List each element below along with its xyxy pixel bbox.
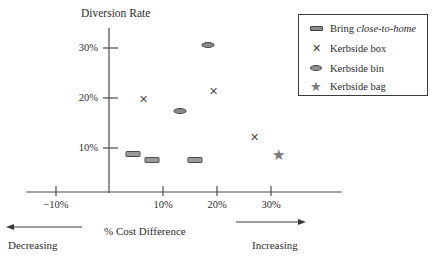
legend-rect-marker-icon: [305, 26, 327, 31]
data-point-star-3-0: ★: [272, 148, 285, 163]
legend-label-bring: Bring close-to-home: [330, 23, 416, 34]
x-tick-label-30: 30%: [251, 199, 291, 210]
legend-item-kerbside-bag: ★ Kerbside bag: [305, 77, 386, 95]
x-tick-label-10: 10%: [143, 199, 183, 210]
x-tick-label-neg10: −10%: [36, 199, 76, 210]
y-tick-label-10: 10%: [64, 142, 98, 153]
x-axis-title: % Cost Difference: [104, 225, 186, 237]
data-point-rect-0-1: [145, 157, 160, 163]
data-point-cross-1-1: ✕: [209, 85, 218, 96]
y-tick-label-20: 20%: [64, 92, 98, 103]
legend-ellipse-marker-icon: [305, 65, 327, 71]
data-point-cross-1-0: ✕: [139, 94, 148, 105]
decreasing-label: Decreasing: [8, 239, 57, 251]
data-point-ellipse-2-1: [201, 42, 214, 48]
scatter-chart: Diversion Rate % Cost Difference 30% 20%…: [0, 0, 433, 261]
legend-label-kerbside-bin: Kerbside bin: [330, 63, 384, 74]
data-point-cross-1-2: ✕: [250, 132, 259, 143]
legend-item-bring: Bring close-to-home: [305, 19, 416, 37]
y-axis-title: Diversion Rate: [81, 7, 150, 19]
legend-star-marker-icon: ★: [305, 80, 327, 93]
increasing-label: Increasing: [252, 239, 298, 251]
legend-cross-marker-icon: ✕: [305, 43, 327, 54]
data-point-rect-0-0: [125, 151, 140, 157]
y-tick-label-30: 30%: [64, 42, 98, 53]
decreasing-arrow-head: [6, 224, 14, 230]
legend-label-kerbside-box: Kerbside box: [330, 43, 386, 54]
x-tick-label-20: 20%: [197, 199, 237, 210]
legend-item-kerbside-box: ✕ Kerbside box: [305, 39, 386, 57]
chart-legend: Bring close-to-home ✕ Kerbside box Kerbs…: [298, 14, 428, 96]
data-point-ellipse-2-0: [173, 108, 186, 114]
data-point-rect-0-2: [188, 157, 203, 163]
legend-item-kerbside-bin: Kerbside bin: [305, 59, 384, 77]
increasing-arrow-head: [298, 219, 306, 225]
legend-label-kerbside-bag: Kerbside bag: [330, 81, 386, 92]
